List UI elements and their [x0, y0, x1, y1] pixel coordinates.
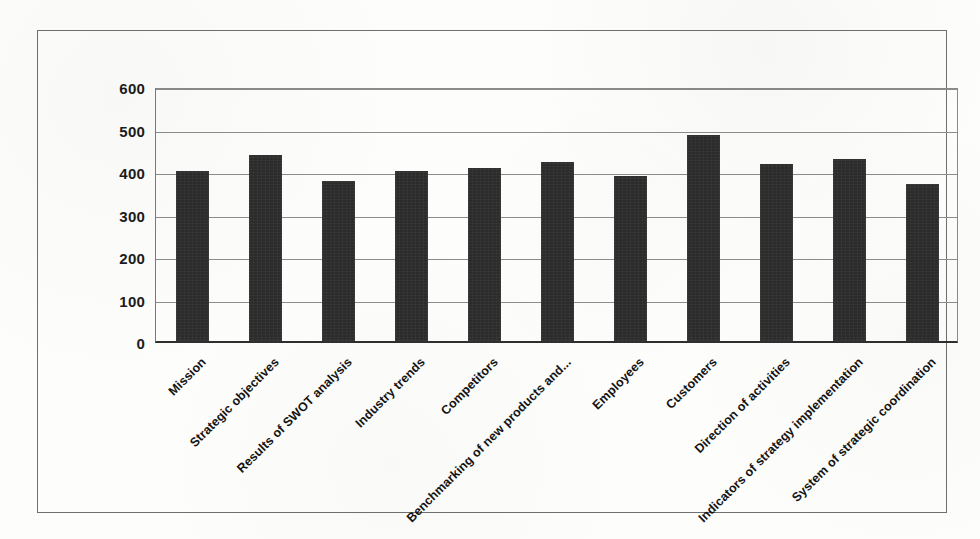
bar[interactable]: [833, 159, 866, 341]
y-tick-label: 400: [119, 166, 145, 181]
y-tick-label: 0: [136, 336, 145, 351]
bar[interactable]: [249, 155, 282, 341]
bar[interactable]: [906, 184, 939, 341]
y-tick-label: 600: [119, 81, 145, 96]
bar[interactable]: [760, 164, 793, 341]
scanned-page-background: 6005004003002001000 MissionStrategic obj…: [0, 0, 980, 539]
y-tick-label: 300: [119, 209, 145, 224]
bar[interactable]: [687, 135, 720, 341]
plot-area: [155, 88, 958, 343]
gridline: [156, 132, 957, 133]
y-tick-label: 500: [119, 124, 145, 139]
bar[interactable]: [541, 162, 574, 341]
gridline: [156, 89, 957, 90]
bar[interactable]: [322, 181, 355, 341]
bar[interactable]: [614, 176, 647, 341]
y-tick-label: 200: [119, 251, 145, 266]
bar[interactable]: [468, 168, 501, 341]
bar[interactable]: [176, 171, 209, 341]
chart-frame: 6005004003002001000 MissionStrategic obj…: [37, 30, 947, 513]
bar[interactable]: [395, 171, 428, 341]
y-tick-label: 100: [119, 294, 145, 309]
x-category-label: Mission: [0, 355, 208, 539]
